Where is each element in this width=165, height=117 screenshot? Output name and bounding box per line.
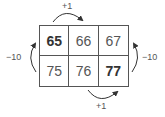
right-arrow-icon [132, 44, 138, 72]
left-arrow-label: −10 [6, 52, 21, 62]
bottom-arrow-icon [88, 90, 117, 99]
top-arrow-label: +1 [62, 1, 72, 11]
bottom-arrow-label: +1 [96, 101, 106, 111]
arrows-overlay [0, 0, 165, 117]
left-arrow-icon [31, 44, 36, 72]
right-arrow-label: −10 [142, 52, 157, 62]
top-arrow-icon [53, 13, 82, 22]
